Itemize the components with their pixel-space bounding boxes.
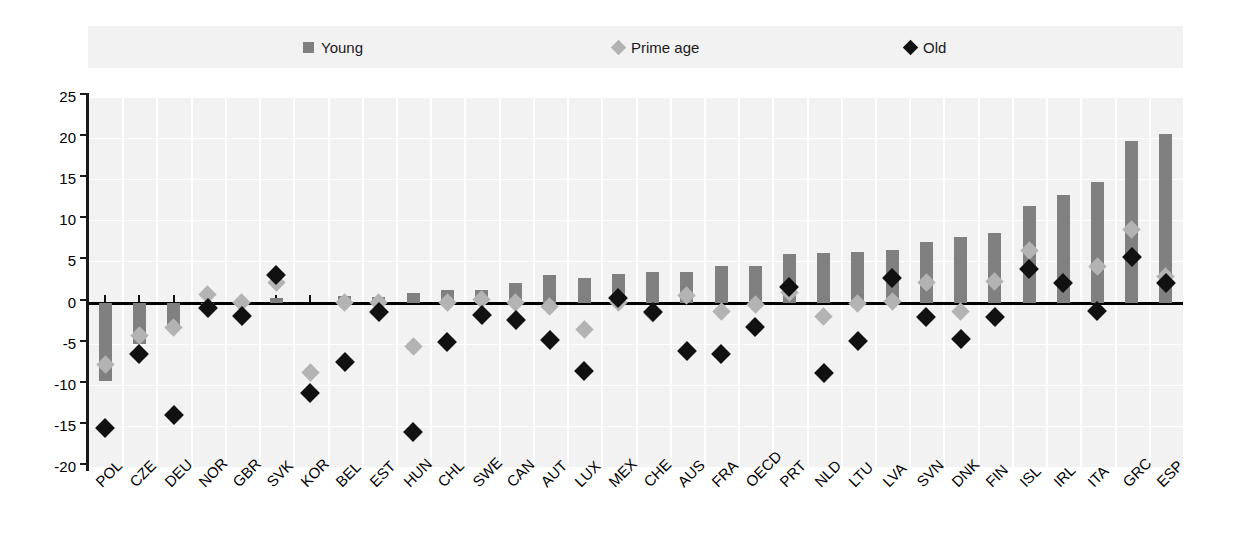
x-axis-tick-label: IRL: [1050, 461, 1079, 490]
x-axis-tick-label: SVN: [913, 456, 947, 490]
x-axis-tick-label: POL: [92, 457, 125, 490]
x-axis-tick-label: FIN: [982, 461, 1011, 490]
x-axis-tick-label: OECD: [742, 447, 785, 490]
x-axis-tick-label: CHE: [640, 456, 674, 490]
x-axis-tick-label: GBR: [229, 455, 264, 490]
x-axis-tick-label: CZE: [126, 457, 159, 490]
x-axis-tick-label: ITA: [1084, 462, 1112, 490]
x-axis-tick-label: GRC: [1119, 454, 1155, 490]
x-axis-tick-label: LTU: [845, 459, 876, 490]
x-axis-tick-label: LVA: [879, 460, 910, 491]
x-axis-tick-label: BEL: [332, 458, 364, 490]
x-axis-tick-label: NLD: [811, 457, 844, 490]
chart-figure: YoungPrime ageOld 2520151050-5-10-15-20 …: [0, 0, 1233, 548]
x-axis-tick-label: DEU: [161, 456, 195, 490]
x-axis-tick-label: HUN: [400, 455, 435, 490]
x-axis-tick-label: AUS: [674, 456, 708, 490]
x-axis-tick-label: FRA: [708, 457, 741, 490]
x-axis-tick-label: SVK: [263, 457, 296, 490]
x-axis-tick-label: DNK: [948, 456, 982, 490]
x-axis-tick-label: EST: [366, 457, 399, 490]
x-axis-tick-label: CAN: [503, 456, 537, 490]
x-axis-tick-label: ISL: [1016, 462, 1044, 490]
x-axis-tick-label: AUT: [537, 457, 570, 490]
x-axis-tick-label: KOR: [297, 455, 332, 490]
x-axis-labels: POLCZEDEUNORGBRSVKKORBELESTHUNCHLSWECANA…: [0, 0, 1233, 548]
x-axis-tick-label: CHL: [434, 457, 467, 490]
x-axis-tick-label: MEX: [605, 455, 640, 490]
x-axis-tick-label: NOR: [195, 454, 231, 490]
x-axis-tick-label: ESP: [1153, 457, 1186, 490]
x-axis-tick-label: LUX: [571, 457, 604, 490]
x-axis-tick-label: SWE: [469, 454, 505, 490]
